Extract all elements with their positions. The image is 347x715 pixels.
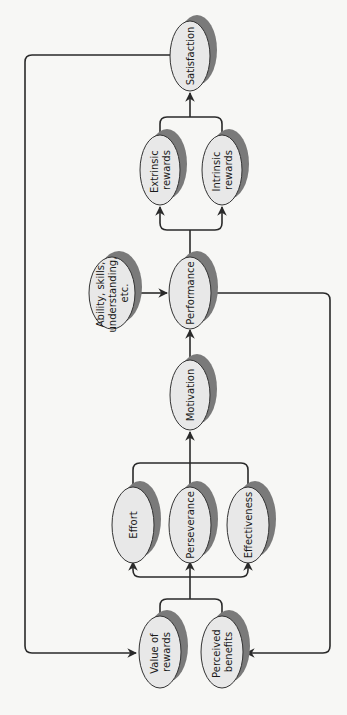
svg-text:Satisfaction: Satisfaction <box>185 27 196 86</box>
node-label: Ability, skills, <box>95 262 106 327</box>
svg-text:Effort: Effort <box>128 511 139 538</box>
node-effectiveness: Effectiveness <box>227 481 276 563</box>
node-label: Perseverance <box>185 491 196 559</box>
node-label: benefits <box>223 632 234 672</box>
svg-text:Intrinsic rewards: Intrinsic rewards <box>211 148 234 191</box>
edge-performance-to-perceived-benefits <box>212 293 330 653</box>
node-value-of-rewards: Value of rewards <box>139 610 188 688</box>
node-extrinsic-rewards: Extrinsic rewards <box>140 129 187 205</box>
svg-text:Extrinsic rewards: Extrinsic rewards <box>149 147 172 193</box>
node-label: Extrinsic <box>149 150 160 193</box>
node-ability: Ability, skills, understanding, etc. <box>89 251 142 333</box>
svg-text:Motivation: Motivation <box>185 369 196 422</box>
svg-text:Value of rewards: Value of rewards <box>149 630 172 673</box>
node-label: rewards <box>161 632 172 672</box>
node-label: Intrinsic <box>211 152 222 192</box>
node-performance: Performance <box>169 251 218 329</box>
node-label: Effectiveness <box>243 492 254 559</box>
node-perceived-benefits: Perceived benefits <box>201 610 250 688</box>
node-motivation: Motivation <box>170 354 217 430</box>
node-label: Motivation <box>185 369 196 422</box>
svg-text:Performance: Performance <box>185 261 196 324</box>
node-perseverance: Perseverance <box>169 481 218 563</box>
node-satisfaction: Satisfaction <box>170 15 217 91</box>
motivation-performance-diagram: Satisfaction Extrinsic rewards Intrinsic… <box>0 0 347 715</box>
node-label: Performance <box>185 261 196 324</box>
node-label: etc. <box>119 284 130 303</box>
node-label: rewards <box>223 150 234 190</box>
node-label: rewards <box>161 150 172 190</box>
node-label: Effort <box>128 511 139 538</box>
node-label: Value of <box>149 633 160 674</box>
svg-text:Perceived benefits: Perceived benefits <box>211 626 234 678</box>
node-intrinsic-rewards: Intrinsic rewards <box>202 129 249 205</box>
svg-text:Effectiveness: Effectiveness <box>243 492 254 559</box>
svg-text:Perseverance: Perseverance <box>185 491 196 559</box>
node-label: Satisfaction <box>185 27 196 86</box>
node-effort: Effort <box>112 481 161 563</box>
node-label: understanding, <box>107 257 118 333</box>
node-label: Perceived <box>211 629 222 678</box>
